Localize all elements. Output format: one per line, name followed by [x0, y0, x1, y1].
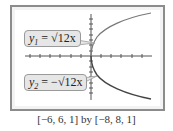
y1-equation-label: y1 = √12x	[24, 30, 81, 47]
y2-expression: −√12x	[51, 75, 82, 89]
graphing-window-frame: y1 = √12x y2 = −√12x	[10, 5, 165, 111]
y1-expression: √12x	[51, 31, 76, 45]
y2-equation-label: y2 = −√12x	[24, 74, 87, 91]
y2-equals: =	[38, 75, 51, 89]
y1-curve	[91, 13, 151, 56]
y2-curve	[91, 56, 151, 99]
y1-equals: =	[38, 31, 51, 45]
plot-screen: y1 = √12x y2 = −√12x	[15, 10, 160, 106]
window-caption: [−6, 6, 1] by [−8, 8, 1]	[0, 113, 173, 125]
